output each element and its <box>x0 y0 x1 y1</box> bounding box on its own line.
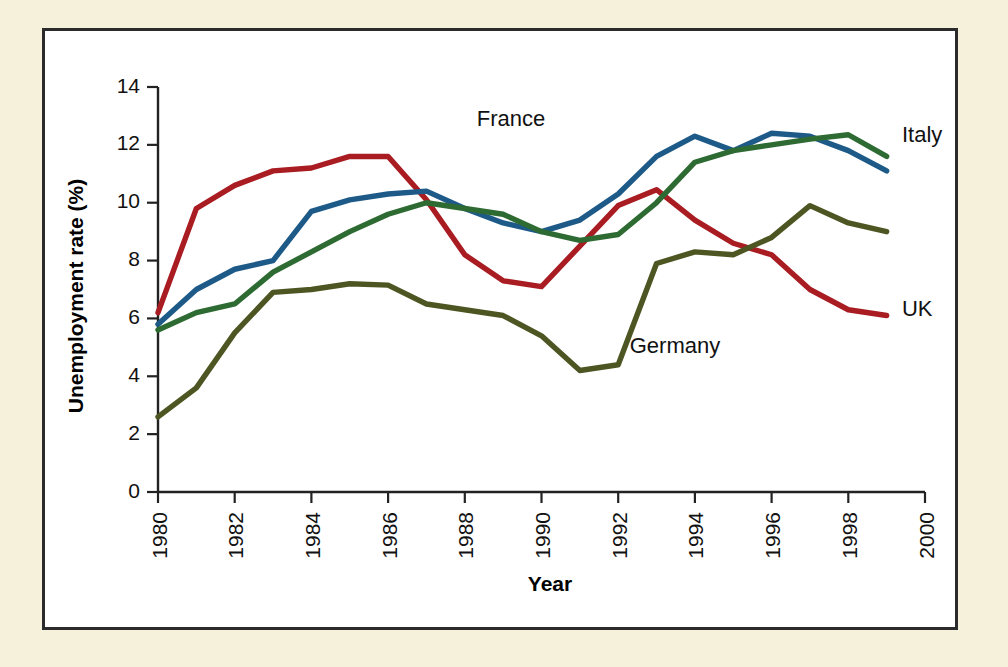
series-label-italy: Italy <box>902 122 942 147</box>
y-tick-label: 14 <box>117 74 141 97</box>
series-lines <box>158 133 887 417</box>
axes: 0246810121419801982198419861988199019921… <box>117 74 938 559</box>
x-tick-label: 1990 <box>531 512 554 559</box>
x-tick-label: 1988 <box>454 512 477 559</box>
unemployment-line-chart: 0246810121419801982198419861988199019921… <box>45 31 961 633</box>
x-tick-label: 1982 <box>224 512 247 559</box>
x-tick-label: 1998 <box>838 512 861 559</box>
x-tick-label: 1994 <box>684 512 707 559</box>
y-tick-label: 6 <box>128 305 140 328</box>
x-axis-title: Year <box>528 572 572 595</box>
y-tick-label: 0 <box>128 479 140 502</box>
series-label-germany: Germany <box>630 333 720 358</box>
y-tick-label: 2 <box>128 421 140 444</box>
figure-frame: 0246810121419801982198419861988199019921… <box>42 28 958 630</box>
series-line-germany <box>158 206 887 417</box>
y-tick-label: 10 <box>117 189 140 212</box>
y-tick-label: 8 <box>128 247 140 270</box>
x-tick-label: 1984 <box>301 512 324 559</box>
x-tick-label: 2000 <box>915 512 938 559</box>
series-label-uk: UK <box>902 296 933 321</box>
y-tick-label: 12 <box>117 131 140 154</box>
y-tick-label: 4 <box>128 363 140 386</box>
x-tick-label: 1996 <box>761 512 784 559</box>
x-tick-label: 1986 <box>378 512 401 559</box>
y-axis-title: Unemployment rate (%) <box>64 179 87 414</box>
x-tick-label: 1980 <box>148 512 171 559</box>
series-label-france: France <box>477 106 545 131</box>
x-tick-label: 1992 <box>608 512 631 559</box>
